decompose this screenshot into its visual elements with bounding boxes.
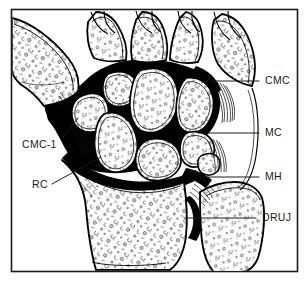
bone-ulna bbox=[200, 182, 264, 272]
wrist-diagram-canvas: CMC MC MH DRUJ CMC-1 RC bbox=[0, 0, 308, 282]
bone-lunate bbox=[136, 139, 181, 181]
bone-capitate bbox=[130, 68, 178, 132]
label-druj: DRUJ bbox=[262, 211, 291, 223]
label-cmc-1: CMC-1 bbox=[22, 138, 57, 150]
bone-pisiform bbox=[198, 154, 220, 176]
anatomical-figure: CMC MC MH DRUJ CMC-1 RC bbox=[0, 0, 308, 282]
label-rc: RC bbox=[32, 178, 48, 190]
label-cmc: CMC bbox=[265, 74, 290, 86]
label-mh: MH bbox=[265, 170, 282, 182]
label-mc: MC bbox=[265, 126, 282, 138]
